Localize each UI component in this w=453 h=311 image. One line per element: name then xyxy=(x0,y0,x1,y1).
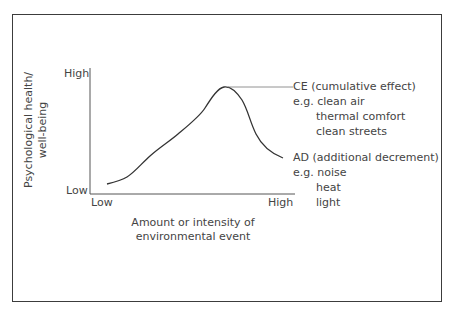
y-axis-label: Psychological health/ well-being xyxy=(22,72,50,188)
x-axis-label: Amount or intensity of environmental eve… xyxy=(118,216,268,244)
y-axis-label-line1: Psychological health/ xyxy=(22,72,36,188)
x-axis-label-line1: Amount or intensity of xyxy=(118,216,268,230)
y-low-label: Low xyxy=(66,184,88,198)
x-high-label: High xyxy=(268,196,293,210)
ad-example-3: light xyxy=(316,196,340,210)
ce-example-1: e.g. clean air xyxy=(293,95,365,109)
ad-title: AD (additional decrement) xyxy=(293,151,439,165)
y-axis-label-line2: well-being xyxy=(36,72,50,188)
x-low-label: Low xyxy=(91,196,113,210)
y-high-label: High xyxy=(64,67,89,81)
ad-example-1: e.g. noise xyxy=(293,166,347,180)
wellbeing-curve xyxy=(107,87,283,184)
ce-example-3: clean streets xyxy=(316,125,387,139)
ce-title: CE (cumulative effect) xyxy=(293,80,416,94)
ad-example-2: heat xyxy=(316,181,341,195)
x-axis-label-line2: environmental event xyxy=(118,230,268,244)
ce-example-2: thermal comfort xyxy=(316,110,405,124)
